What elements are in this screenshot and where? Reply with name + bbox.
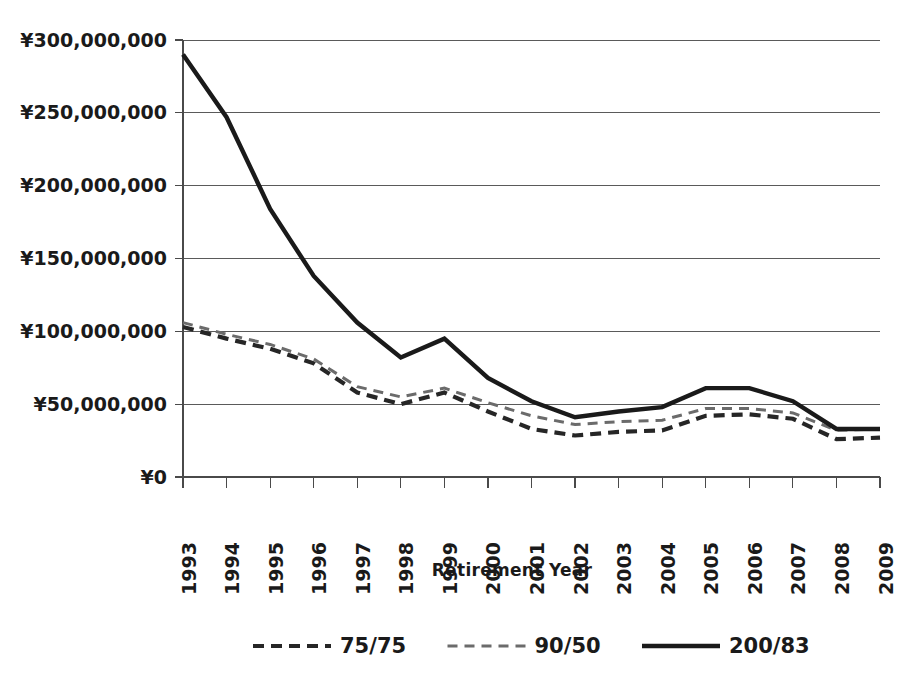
y-axis-tick-labels: ¥300,000,000¥250,000,000¥200,000,000¥150…: [20, 29, 167, 488]
y-axis-tick-label: ¥150,000,000: [20, 247, 167, 269]
x-axis-tick-label: 2003: [613, 542, 635, 595]
data-series: [183, 55, 880, 440]
y-axis-tick-label: ¥300,000,000: [20, 29, 167, 51]
y-axis-tick-label: ¥100,000,000: [20, 320, 167, 342]
series-line-90-50: [183, 323, 880, 431]
y-axis-tick-label: ¥0: [141, 466, 167, 488]
x-axis-tick-marks: [183, 477, 880, 488]
line-chart: ¥300,000,000¥250,000,000¥200,000,000¥150…: [0, 0, 901, 684]
x-axis-tick-label: 2004: [657, 542, 679, 595]
legend-label-200-83: 200/83: [729, 634, 810, 658]
x-axis-tick-label: 1998: [395, 542, 417, 595]
legend-label-90-50: 90/50: [535, 634, 601, 658]
legend-label-75-75: 75/75: [340, 634, 406, 658]
y-axis-tick-label: ¥250,000,000: [20, 101, 167, 123]
x-axis-tick-label: 1997: [352, 542, 374, 595]
series-line-200-83: [183, 55, 880, 429]
chart-legend: 75/7590/50200/83: [253, 634, 810, 658]
x-axis-title: Retirement Year: [432, 560, 593, 580]
y-axis-tick-label: ¥50,000,000: [34, 393, 167, 415]
chart-container: ¥300,000,000¥250,000,000¥200,000,000¥150…: [0, 0, 901, 684]
series-line-75-75: [183, 327, 880, 439]
x-axis-tick-label: 2005: [700, 542, 722, 595]
x-axis-tick-label: 2006: [744, 542, 766, 595]
x-axis-tick-label: 2007: [787, 542, 809, 595]
x-axis-tick-label: 1993: [178, 542, 200, 595]
y-axis-tick-label: ¥200,000,000: [20, 174, 167, 196]
x-axis-tick-label: 1994: [221, 542, 243, 595]
x-axis-tick-label: 2009: [875, 542, 897, 595]
x-axis-tick-label: 1996: [308, 542, 330, 595]
x-axis-tick-label: 2008: [831, 542, 853, 595]
y-axis-tick-marks: [175, 40, 183, 477]
x-axis-tick-label: 1995: [265, 542, 287, 595]
